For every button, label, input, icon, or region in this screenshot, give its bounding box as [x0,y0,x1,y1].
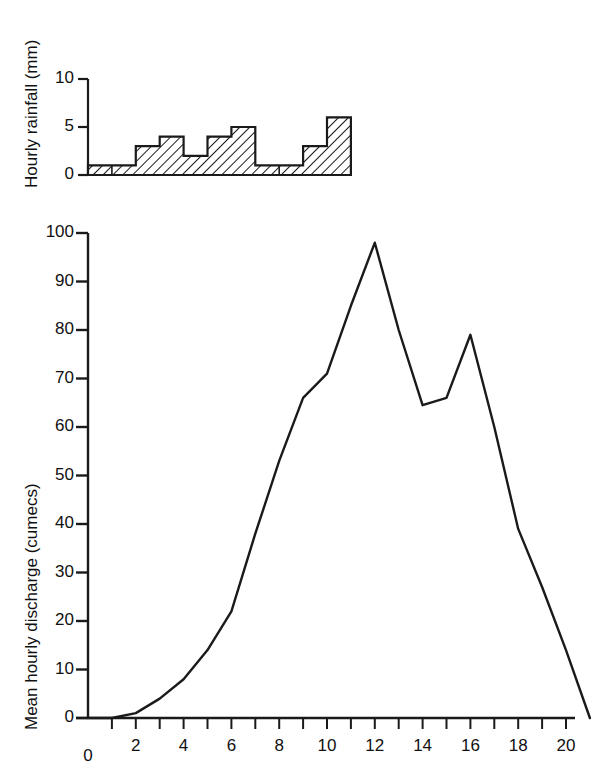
hydrograph-figure: Hourly rainfall (mm) 0510 Mean hourly di… [0,0,592,762]
discharge-plot [0,0,592,762]
discharge-axis-lines [76,233,575,729]
discharge-curve [88,243,590,718]
